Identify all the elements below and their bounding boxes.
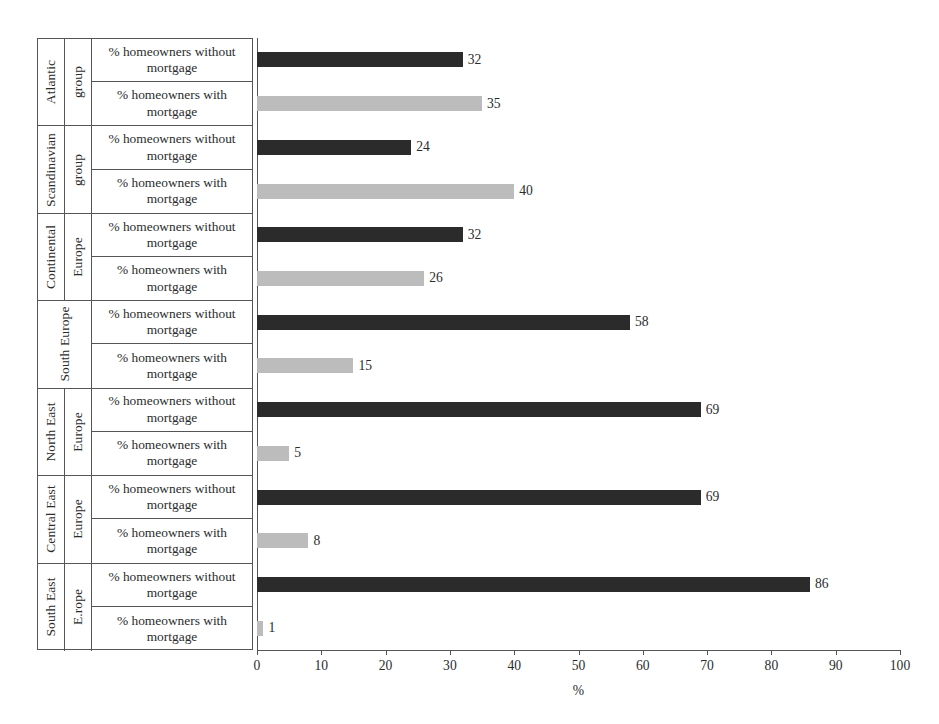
bar-value-label: 32 xyxy=(468,52,482,68)
measure-label: % homeowners without mortgage xyxy=(92,389,252,432)
group-name-cell-secondary: E.rope xyxy=(65,564,92,651)
bar-value-label: 40 xyxy=(519,183,533,199)
measure-label: % homeowners without mortgage xyxy=(92,301,252,344)
bar xyxy=(257,490,701,505)
measure-label: % homeowners with mortgage xyxy=(92,257,252,300)
x-tick-label: 90 xyxy=(829,658,843,674)
bar xyxy=(257,621,263,636)
group-name-cell-secondary: Europe xyxy=(65,476,92,562)
bar xyxy=(257,184,514,199)
measure-label: % homeowners without mortgage xyxy=(92,476,252,519)
measure-cells: % homeowners without mortgage% homeowner… xyxy=(92,214,252,300)
x-tick-mark xyxy=(579,650,580,655)
group-name-label-secondary: E.rope xyxy=(71,589,85,625)
group-name-cell-secondary: group xyxy=(65,39,92,125)
y-axis-line xyxy=(257,38,258,650)
bar xyxy=(257,227,463,242)
bar-value-label: 35 xyxy=(487,96,501,112)
x-tick-label: 100 xyxy=(890,658,910,674)
x-tick-mark xyxy=(771,650,772,655)
x-tick-mark xyxy=(257,650,258,655)
group-name-label-secondary: Europe xyxy=(71,237,85,277)
group-name-label-secondary: group xyxy=(71,154,85,186)
bar-value-label: 86 xyxy=(815,576,829,592)
x-tick-mark xyxy=(900,650,901,655)
x-tick-mark xyxy=(707,650,708,655)
group-name-label: Atlantic xyxy=(44,60,58,104)
bar xyxy=(257,315,630,330)
bar-value-label: 69 xyxy=(706,489,720,505)
measure-cells: % homeowners without mortgage% homeowner… xyxy=(92,564,252,651)
bar xyxy=(257,140,411,155)
bar xyxy=(257,96,482,111)
measure-label: % homeowners without mortgage xyxy=(92,39,252,82)
x-tick-label: 50 xyxy=(572,658,586,674)
table-row: North EastEurope% homeowners without mor… xyxy=(38,389,252,476)
group-name-cell-secondary: group xyxy=(65,126,92,212)
table-row: South EastE.rope% homeowners without mor… xyxy=(38,564,252,651)
x-tick-mark xyxy=(514,650,515,655)
x-tick-label: 0 xyxy=(254,658,261,674)
group-name-label-secondary: Europe xyxy=(71,500,85,540)
x-tick-label: 80 xyxy=(765,658,779,674)
table-row: ContinentalEurope% homeowners without mo… xyxy=(38,214,252,301)
x-tick-mark xyxy=(386,650,387,655)
measure-cells: % homeowners without mortgage% homeowner… xyxy=(92,476,252,562)
bar xyxy=(257,446,289,461)
group-name-label-secondary: group xyxy=(71,66,85,98)
group-name-cell: Scandinavian xyxy=(38,126,65,212)
x-tick-label: 30 xyxy=(443,658,457,674)
measure-label: % homeowners with mortgage xyxy=(92,432,252,475)
measure-label: % homeowners without mortgage xyxy=(92,214,252,257)
measure-label: % homeowners with mortgage xyxy=(92,82,252,125)
group-name-cell: South East xyxy=(38,564,65,651)
group-name-label: South Europe xyxy=(58,307,72,382)
measure-label: % homeowners with mortgage xyxy=(92,170,252,213)
bar-value-label: 69 xyxy=(706,402,720,418)
x-tick-label: 40 xyxy=(507,658,521,674)
measure-label: % homeowners with mortgage xyxy=(92,607,252,651)
bar-value-label: 24 xyxy=(416,139,430,155)
group-name-cell: Central East xyxy=(38,476,65,562)
table-row: Central EastEurope% homeowners without m… xyxy=(38,476,252,563)
horizontal-bar-chart: Atlanticgroup% homeowners without mortga… xyxy=(0,0,939,724)
x-axis-title: % xyxy=(573,683,584,699)
x-tick-mark xyxy=(643,650,644,655)
x-tick-mark xyxy=(321,650,322,655)
measure-label: % homeowners without mortgage xyxy=(92,564,252,608)
measure-cells: % homeowners without mortgage% homeowner… xyxy=(92,389,252,475)
group-name-cell-secondary: Europe xyxy=(65,214,92,300)
group-name-cell: North East xyxy=(38,389,65,475)
plot-area: 0102030405060708090100 32352440322658156… xyxy=(257,38,900,650)
x-tick-mark xyxy=(450,650,451,655)
group-name-cell-secondary: Europe xyxy=(65,389,92,475)
measure-cells: % homeowners without mortgage% homeowner… xyxy=(92,126,252,212)
table-row: Atlanticgroup% homeowners without mortga… xyxy=(38,39,252,126)
bar-value-label: 58 xyxy=(635,314,649,330)
measure-label: % homeowners without mortgage xyxy=(92,126,252,169)
group-name-label: South East xyxy=(44,578,58,637)
group-name-label: North East xyxy=(44,402,58,461)
group-name-label: Continental xyxy=(44,225,58,289)
bar-value-label: 32 xyxy=(468,227,482,243)
category-label-table: Atlanticgroup% homeowners without mortga… xyxy=(37,38,253,650)
bar-value-label: 26 xyxy=(429,270,443,286)
measure-label: % homeowners with mortgage xyxy=(92,344,252,387)
bar xyxy=(257,402,701,417)
group-name-cell: South Europe xyxy=(38,301,92,387)
bar-value-label: 15 xyxy=(358,358,372,374)
bar xyxy=(257,358,353,373)
group-name-label-secondary: Europe xyxy=(71,412,85,452)
bar xyxy=(257,533,308,548)
table-row: South Europe% homeowners without mortgag… xyxy=(38,301,252,388)
measure-label: % homeowners with mortgage xyxy=(92,519,252,562)
group-name-label: Scandinavian xyxy=(44,133,58,207)
bar-value-label: 1 xyxy=(268,620,275,636)
x-tick-label: 60 xyxy=(636,658,650,674)
bar-value-label: 8 xyxy=(313,533,320,549)
bar xyxy=(257,271,424,286)
bar xyxy=(257,577,810,592)
x-tick-label: 70 xyxy=(700,658,714,674)
group-name-cell: Atlantic xyxy=(38,39,65,125)
group-name-label: Central East xyxy=(44,486,58,554)
